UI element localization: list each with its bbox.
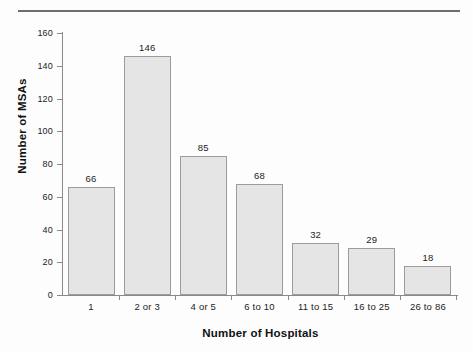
x-axis-category-label: 6 to 10 <box>231 301 287 312</box>
y-axis-tick <box>57 295 62 296</box>
y-axis-tick-label: 100 <box>20 126 53 136</box>
x-axis-category-label: 26 to 86 <box>400 301 456 312</box>
x-axis-tick <box>456 296 457 300</box>
y-axis-tick-label: 20 <box>20 257 53 267</box>
bar <box>180 156 227 295</box>
x-axis-category-label: 2 or 3 <box>119 301 175 312</box>
y-axis-tick-label: 40 <box>20 225 53 235</box>
x-axis-line <box>62 295 458 296</box>
bar <box>68 187 115 295</box>
y-axis-tick <box>57 197 62 198</box>
bar-value-label: 18 <box>400 252 456 263</box>
bar-value-label: 85 <box>175 142 231 153</box>
bar <box>236 184 283 295</box>
y-axis-tick-label: 0 <box>20 290 53 300</box>
x-axis-title: Number of Hospitals <box>0 327 473 339</box>
y-axis-tick-label: 120 <box>20 94 53 104</box>
bar <box>292 243 339 295</box>
x-axis-category-label: 4 or 5 <box>175 301 231 312</box>
x-axis-category-label: 11 to 15 <box>288 301 344 312</box>
y-axis-tick-label: 140 <box>20 61 53 71</box>
bar <box>124 56 171 295</box>
y-axis-tick-label: 80 <box>20 159 53 169</box>
y-axis-tick-label: 60 <box>20 192 53 202</box>
y-axis-tick-label: 160 <box>20 28 53 38</box>
bar-value-label: 29 <box>344 234 400 245</box>
bar-value-label: 66 <box>63 173 119 184</box>
x-axis-tick <box>231 296 232 300</box>
y-axis-tick <box>57 99 62 100</box>
x-axis-tick <box>288 296 289 300</box>
y-axis-tick <box>57 131 62 132</box>
y-axis-tick <box>57 164 62 165</box>
bar <box>348 248 395 295</box>
bar-value-label: 32 <box>288 229 344 240</box>
top-divider-rule <box>18 10 460 12</box>
y-axis-tick <box>57 66 62 67</box>
bar-value-label: 68 <box>231 170 287 181</box>
x-axis-category-label: 1 <box>63 301 119 312</box>
y-axis-tick <box>57 262 62 263</box>
plot-area <box>63 33 456 295</box>
x-axis-tick <box>400 296 401 300</box>
y-axis-tick <box>57 33 62 34</box>
x-axis-category-label: 16 to 25 <box>344 301 400 312</box>
x-axis-tick <box>344 296 345 300</box>
bar-value-label: 146 <box>119 42 175 53</box>
y-axis-tick <box>57 230 62 231</box>
bar-chart-figure: Number of MSAs 020406080100120140160 661… <box>0 0 473 353</box>
bar <box>404 266 451 295</box>
x-axis-tick <box>175 296 176 300</box>
x-axis-tick <box>119 296 120 300</box>
